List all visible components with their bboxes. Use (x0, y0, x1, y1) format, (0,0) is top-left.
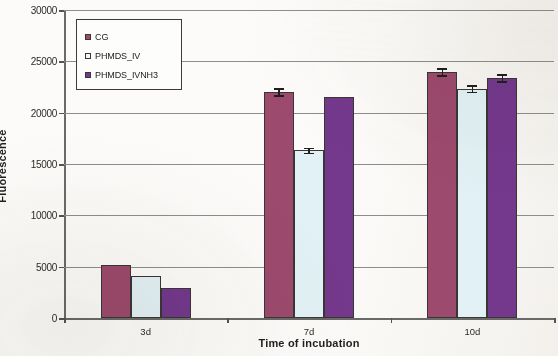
x-axis-tick (554, 318, 556, 323)
bar-10d-PHMDS_IV (457, 89, 487, 318)
gridline (64, 10, 554, 11)
y-axis-tick-label: 10000 (31, 210, 57, 221)
y-axis-tick (59, 10, 64, 12)
x-axis-line (64, 318, 556, 320)
bar-7d-CG (264, 92, 294, 318)
legend-swatch-phmds-ivnh3-icon (85, 72, 91, 78)
x-axis-tick (227, 318, 229, 323)
legend-item-phmds-ivnh3: PHMDS_IVNH3 (85, 65, 181, 84)
legend-item-cg: CG (85, 27, 181, 46)
y-axis-tick-label: 15000 (31, 159, 57, 170)
bar-chart-figure: Fluorescence Time of incubation 05000100… (0, 0, 558, 356)
legend-swatch-phmds-iv-icon (85, 53, 91, 59)
y-axis-tick-label: 30000 (31, 5, 57, 16)
error-bar-cap (437, 75, 447, 77)
error-bar-cap (437, 68, 447, 70)
bar-7d-PHMDS_IV (294, 150, 324, 318)
y-axis-tick-label: 20000 (31, 107, 57, 118)
y-axis-tick-label: 5000 (36, 261, 57, 272)
legend-label-cg: CG (95, 32, 108, 42)
error-bar-cap (467, 85, 477, 87)
bar-10d-CG (427, 72, 457, 318)
x-axis-tick (64, 318, 66, 323)
x-axis-tick (391, 318, 393, 323)
bar-10d-PHMDS_IVNH3 (487, 78, 517, 318)
y-axis-tick-label: 0 (52, 313, 57, 324)
error-bar-cap (304, 153, 314, 155)
legend-label-phmds-ivnh3: PHMDS_IVNH3 (95, 70, 158, 80)
bar-3d-PHMDS_IVNH3 (161, 288, 191, 318)
error-bar-cap (274, 95, 284, 97)
legend-item-phmds-iv: PHMDS_IV (85, 46, 181, 65)
error-bar-cap (497, 81, 507, 83)
chart-legend: CG PHMDS_IV PHMDS_IVNH3 (76, 19, 182, 90)
x-axis-tick-label-10d: 10d (464, 326, 480, 337)
x-axis-title: Time of incubation (64, 337, 554, 349)
bar-7d-PHMDS_IVNH3 (324, 97, 354, 318)
y-axis-tick (59, 164, 64, 166)
error-bar-cap (497, 74, 507, 76)
error-bar-cap (274, 88, 284, 90)
y-axis-tick (59, 61, 64, 63)
x-axis-tick-label-3d: 3d (140, 326, 151, 337)
y-axis-title: Fluorescence (0, 129, 8, 202)
legend-swatch-cg-icon (85, 34, 91, 40)
y-axis-tick (59, 215, 64, 217)
legend-label-phmds-iv: PHMDS_IV (95, 51, 140, 61)
error-bar-cap (467, 92, 477, 94)
error-bar-cap (304, 148, 314, 150)
y-axis-tick (59, 267, 64, 269)
bar-3d-PHMDS_IV (131, 276, 161, 318)
bar-3d-CG (101, 265, 131, 318)
y-axis-tick (59, 113, 64, 115)
x-axis-tick-label-7d: 7d (304, 326, 315, 337)
y-axis-tick-label: 25000 (31, 56, 57, 67)
